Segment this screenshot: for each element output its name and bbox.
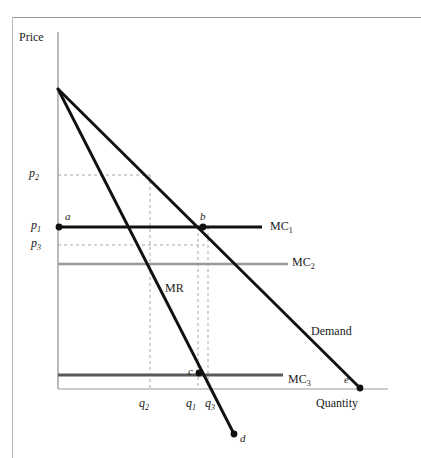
quantity-tick-q3: q3 — [205, 396, 215, 412]
point-a-label: a — [65, 210, 71, 222]
mc2-label: MC2 — [292, 255, 315, 271]
figure-canvas: Price Quantity p2 p1 p3 q2 q1 q3 MC1 MC2… — [0, 0, 421, 458]
point-c-label: c — [188, 365, 193, 377]
price-tick-p2: p2 — [29, 166, 39, 182]
demand-label: Demand — [311, 324, 352, 339]
point-e-marker — [357, 385, 364, 392]
x-axis-title: Quantity — [316, 396, 358, 411]
quantity-tick-q2: q2 — [139, 396, 149, 412]
point-e-label: e — [344, 373, 349, 385]
point-a-marker — [56, 224, 63, 231]
point-c-marker — [196, 370, 203, 377]
point-b-marker — [200, 224, 207, 231]
quantity-tick-q1: q1 — [186, 396, 196, 412]
point-b-label: b — [200, 210, 206, 222]
price-tick-p1: p1 — [31, 218, 41, 234]
y-axis-title: Price — [19, 30, 44, 45]
economics-diagram-svg — [0, 0, 421, 458]
price-tick-p3: p3 — [31, 236, 41, 252]
mc1-label: MC1 — [270, 219, 293, 235]
point-d-marker — [231, 431, 238, 438]
point-d-label: d — [240, 432, 246, 444]
mr-curve — [58, 89, 234, 434]
mc3-label: MC3 — [288, 372, 311, 388]
mr-label: MR — [165, 281, 184, 296]
demand-curve — [58, 89, 360, 388]
